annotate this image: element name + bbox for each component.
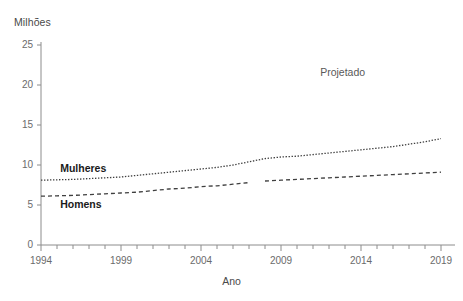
series-line-homens	[41, 183, 249, 197]
x-tick-label: 1999	[99, 255, 143, 266]
x-tick-label: 2019	[419, 255, 463, 266]
x-tick-label: 2009	[259, 255, 303, 266]
y-tick-label: 20	[7, 80, 33, 90]
x-tick-label: 2014	[339, 255, 383, 266]
y-tick-label: 15	[7, 120, 33, 130]
series-line-homens	[265, 172, 441, 181]
series-label-mulheres: Mulheres	[60, 162, 106, 174]
line-chart: Milhões 0510152025 199419992004200920142…	[0, 0, 463, 301]
x-axis-title: Ano	[0, 275, 463, 287]
y-tick-label: 25	[7, 40, 33, 50]
x-tick-label: 1994	[19, 255, 63, 266]
series-label-homens: Homens	[60, 198, 101, 210]
y-tick-label: 5	[7, 200, 33, 210]
y-tick-label: 0	[7, 240, 33, 250]
x-tick-label: 2004	[179, 255, 223, 266]
annotation-projetado: Projetado	[320, 66, 365, 78]
y-tick-label: 10	[7, 160, 33, 170]
plot-area	[0, 0, 463, 301]
